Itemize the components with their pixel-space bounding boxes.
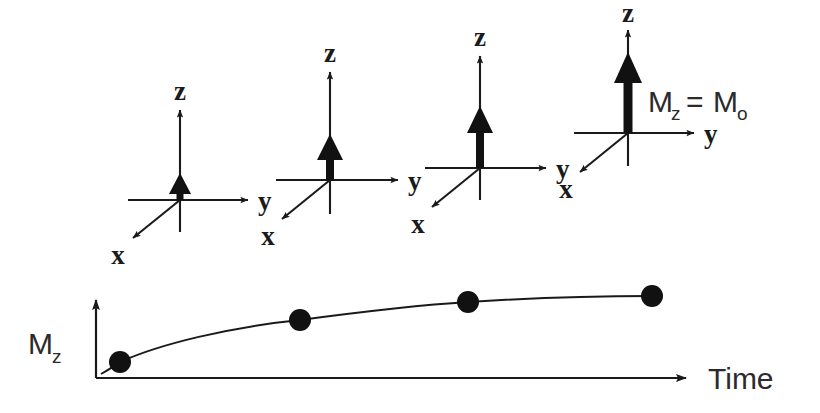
plot-y-axis-label-sub: z — [52, 346, 62, 367]
annotation-sub-o: o — [737, 103, 748, 124]
frame-4-z-label: z — [622, 0, 634, 28]
frame-1-magnetization-vector — [169, 173, 191, 200]
annotation-m2: M — [713, 85, 738, 118]
t1-relaxation-figure: z y x z y x z y — [0, 0, 820, 413]
frame-1-x-axis — [133, 200, 180, 238]
coordinate-frame-2: z y x — [261, 38, 422, 251]
coordinate-frame-3: z y x — [411, 22, 570, 239]
recovery-curve — [101, 296, 652, 374]
annotation-equals: = — [686, 85, 704, 118]
data-point-3 — [457, 291, 479, 313]
frame-1-x-label: x — [111, 240, 125, 270]
frame-3-x-axis — [432, 168, 480, 207]
annotation-m1: M — [648, 85, 673, 118]
frame-2-y-label: y — [408, 166, 422, 196]
data-point-2 — [289, 309, 311, 331]
frame-1-z-label: z — [174, 76, 186, 106]
figure-canvas: z y x z y x z y — [0, 0, 820, 413]
frame-1-y-label: y — [258, 186, 272, 216]
frame-3-x-label: x — [411, 209, 425, 239]
frame-4-y-label: y — [704, 119, 718, 149]
frame-3-magnetization-vector — [467, 106, 493, 168]
plot-y-axis-label: M — [28, 327, 53, 360]
frame-4-x-axis — [580, 133, 628, 172]
frame-2-magnetization-vector — [317, 134, 343, 180]
coordinate-frame-1: z y x — [111, 76, 272, 270]
frame-4-magnetization-vector — [614, 52, 642, 133]
frame-2-x-label: x — [261, 221, 275, 251]
plot-x-axis-label: Time — [708, 362, 774, 395]
data-point-4 — [641, 285, 663, 307]
frame-4-x-label: x — [559, 174, 573, 204]
mz-equals-mo-annotation: M z = M o — [648, 85, 748, 124]
data-point-1 — [109, 351, 131, 373]
recovery-plot: M z Time — [28, 285, 774, 395]
annotation-sub-z: z — [671, 103, 681, 124]
frame-3-z-label: z — [474, 22, 486, 52]
frame-2-z-label: z — [324, 38, 336, 68]
frame-2-x-axis — [282, 180, 330, 219]
